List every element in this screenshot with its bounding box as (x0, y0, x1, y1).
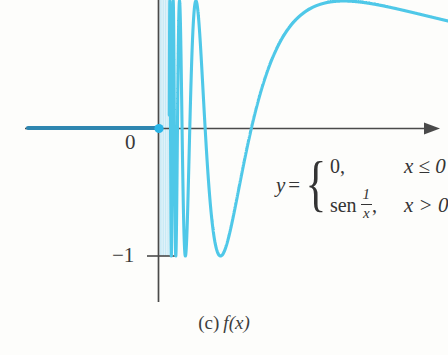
equation-brace: { (306, 161, 327, 206)
fraction-numerator: 1 (361, 187, 373, 202)
origin-dot (154, 124, 163, 133)
figure-caption: (c)f(x) (0, 312, 448, 334)
caption-function: f(x) (219, 312, 249, 333)
fraction-denominator: x (361, 206, 372, 221)
equation-annotation: y = { 0, x ≤ 0 sen 1 x , x > 0 (276, 152, 448, 219)
equation-lhs: y (276, 173, 288, 198)
equation-sine-word: sen (330, 194, 361, 217)
equation-equals-sign: = (288, 173, 303, 198)
equation-case-one-condition: x ≤ 0 (404, 154, 446, 179)
equation-case-two-comma: , (372, 194, 379, 217)
equation-cases: 0, x ≤ 0 sen 1 x , x > 0 (328, 152, 448, 219)
equation-case-one-value: 0, (330, 155, 404, 178)
origin-label: 0 (125, 132, 136, 153)
figure-container: 0 −1 y = { 0, x ≤ 0 sen 1 x , x > (0, 0, 448, 355)
equation-case-two: sen 1 x , x > 0 (330, 191, 448, 219)
equation-case-one: 0, x ≤ 0 (330, 152, 448, 180)
x-axis-arrowhead (424, 123, 440, 135)
equation-case-two-condition: x > 0 (404, 193, 448, 218)
y-tick-label-negative-one: −1 (112, 245, 134, 266)
equation-case-two-value: sen 1 x , (330, 188, 404, 222)
equation-fraction-one-over-x: 1 x (361, 187, 373, 221)
caption-prefix: (c) (198, 312, 219, 333)
